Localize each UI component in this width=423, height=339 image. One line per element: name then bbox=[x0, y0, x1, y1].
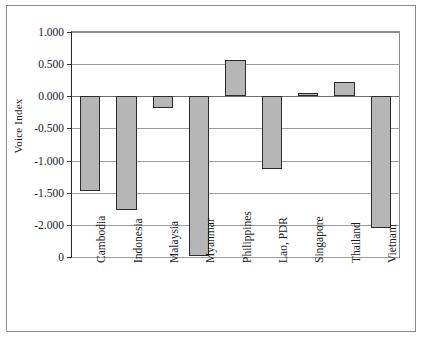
bar bbox=[262, 96, 282, 169]
x-axis-category-label: Indonesia bbox=[132, 218, 144, 263]
bar bbox=[225, 60, 245, 96]
bar bbox=[80, 96, 100, 191]
y-axis-tick-mark bbox=[67, 257, 72, 258]
bar bbox=[334, 82, 354, 96]
y-axis-tick-mark bbox=[67, 161, 72, 162]
y-axis-tick-label: 0.500 bbox=[38, 58, 64, 70]
bar bbox=[116, 96, 136, 210]
bar bbox=[298, 93, 318, 96]
x-axis-category-label: Myanmar bbox=[204, 218, 216, 263]
gridline bbox=[72, 32, 399, 33]
y-axis-tick-label: 0 bbox=[58, 251, 64, 263]
bar bbox=[153, 96, 173, 108]
x-axis-category-label: Philippines bbox=[241, 211, 253, 263]
x-axis-category-label: Cambodia bbox=[95, 216, 107, 263]
x-axis-category-label: Lao, PDR bbox=[277, 217, 289, 263]
y-axis-tick-label: -1.500 bbox=[34, 187, 64, 199]
y-axis-tick-mark bbox=[67, 128, 72, 129]
y-axis-tick-mark bbox=[67, 32, 72, 33]
bar bbox=[371, 96, 391, 228]
y-axis-tick-label: -0.500 bbox=[34, 122, 64, 134]
y-axis-tick-mark bbox=[67, 193, 72, 194]
chart-figure: Voice Index 1.0000.5000.000-0.500-1.000-… bbox=[0, 0, 423, 339]
x-axis-category-label: Thailand bbox=[350, 222, 362, 263]
y-axis-tick-label: 1.000 bbox=[38, 26, 64, 38]
y-axis-tick-mark bbox=[67, 225, 72, 226]
y-axis-tick-mark bbox=[67, 96, 72, 97]
x-axis-category-label: Singapore bbox=[313, 216, 325, 263]
plot-area: 1.0000.5000.000-0.500-1.000-1.500-2.0000… bbox=[71, 31, 400, 258]
y-axis-tick-label: -2.000 bbox=[34, 219, 64, 231]
y-axis-tick-mark bbox=[67, 64, 72, 65]
y-axis-tick-label: 0.000 bbox=[38, 90, 64, 102]
y-axis-title: Voice Index bbox=[12, 86, 24, 166]
x-axis-category-label: Malaysia bbox=[168, 221, 180, 263]
x-axis-category-label: Vietnam bbox=[386, 224, 398, 263]
y-axis-tick-label: -1.000 bbox=[34, 155, 64, 167]
